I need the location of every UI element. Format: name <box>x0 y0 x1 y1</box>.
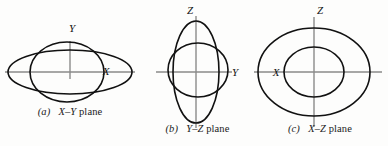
panel-a-diagram: X Y <box>0 0 140 146</box>
y-axis-label: Y <box>232 66 240 78</box>
panel-c-caption: (c) X–Z plane <box>252 123 388 134</box>
x-axis-label: X <box>102 65 111 77</box>
x-axis-label: X <box>272 66 281 78</box>
panel-a-caption-index: (a) <box>38 106 51 117</box>
panel-a-caption: (a) X–Y plane <box>0 106 140 117</box>
panel-b-caption: (b) Y–Z plane <box>140 123 255 134</box>
panel-y-z-plane: Y Z (b) Y–Z plane <box>140 0 255 146</box>
z-axis-label: Z <box>317 4 324 16</box>
panel-b-caption-index: (b) <box>166 123 179 134</box>
z-axis-label: Z <box>187 4 194 16</box>
panel-a-caption-axes: X–Y <box>58 106 76 117</box>
panel-b-caption-suffix: plane <box>206 123 229 134</box>
panel-c-caption-axes: X–Z <box>308 123 326 134</box>
y-axis-label: Y <box>69 22 77 34</box>
panel-x-z-plane: X Z (c) X–Z plane <box>252 0 388 146</box>
panel-a-caption-suffix: plane <box>79 106 102 117</box>
panel-c-caption-index: (c) <box>288 123 300 134</box>
panel-b-caption-axes: Y–Z <box>186 123 203 134</box>
panel-x-y-plane: X Y (a) X–Y plane <box>0 0 140 146</box>
panel-c-caption-suffix: plane <box>329 123 352 134</box>
figure-container: X Y (a) X–Y plane Y Z (b) Y–Z <box>0 0 388 146</box>
